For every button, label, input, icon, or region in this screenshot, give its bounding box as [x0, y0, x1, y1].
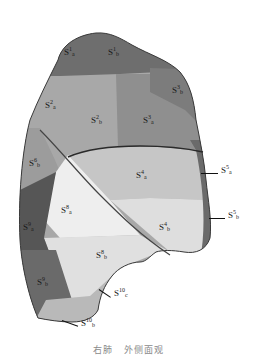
label-s6b: S6b	[29, 157, 40, 168]
label-s3a: S3a	[143, 114, 154, 125]
label-s1b: S1b	[108, 46, 119, 57]
label-s9a: S9a	[23, 221, 34, 232]
label-s10c: S10c	[114, 287, 128, 298]
label-s9b: S9b	[37, 276, 48, 287]
label-s2a: S2a	[45, 99, 56, 110]
label-s10b: S10b	[81, 317, 95, 328]
label-s2b: S2b	[91, 114, 102, 125]
label-s5b: S5b	[228, 209, 239, 220]
leader-line-s5a	[201, 173, 218, 174]
lung-illustration	[0, 0, 257, 360]
label-s1a: S1a	[64, 46, 75, 57]
label-s8a: S8a	[61, 204, 72, 215]
label-s3b: S3b	[172, 84, 183, 95]
label-s5a: S5a	[221, 164, 232, 175]
figure-caption: 右肺 外侧面观	[0, 343, 257, 356]
label-s8b: S8b	[96, 249, 107, 260]
label-s4a: S4a	[136, 169, 147, 180]
label-s4b: S4b	[159, 221, 170, 232]
caption-organ: 右肺	[93, 345, 113, 355]
caption-view: 外侧面观	[124, 345, 164, 355]
leader-line-s5b	[209, 218, 225, 219]
right-lung-lateral-diagram: S1a S1b S3b S2a S2b S3a S6b S4a S5a S8a …	[0, 0, 257, 360]
